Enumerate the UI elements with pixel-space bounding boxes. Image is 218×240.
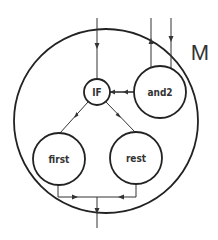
wire-if-to-rest bbox=[106, 102, 135, 132]
arrow-down-icon bbox=[169, 36, 174, 42]
wire-if-to-first bbox=[60, 102, 88, 133]
node-first-label: first bbox=[49, 154, 70, 165]
arrow-left-icon bbox=[123, 90, 128, 95]
module-m-boundary bbox=[14, 29, 198, 213]
wire-rest-to-merge bbox=[97, 184, 136, 197]
node-if-label: IF bbox=[92, 87, 102, 98]
arrow-left-icon bbox=[118, 195, 124, 200]
arrow-down-icon bbox=[95, 43, 100, 49]
module-label: M bbox=[191, 42, 209, 64]
arrow-right-icon bbox=[72, 195, 78, 200]
module-diagram bbox=[0, 0, 218, 240]
wire-first-to-merge bbox=[58, 185, 97, 197]
node-rest-label: rest bbox=[126, 153, 146, 164]
node-and2-label: and2 bbox=[147, 87, 172, 98]
